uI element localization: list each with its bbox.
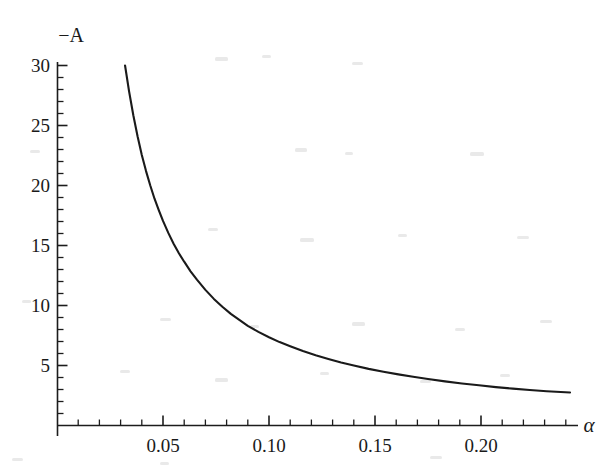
data-curve-line [125,66,570,393]
axis-lines [57,62,578,436]
y-tick-label-2: 15 [31,235,50,256]
y-axis-tick-labels: 5 10 15 20 25 30 [31,55,50,376]
y-tick-label-3: 20 [31,175,50,196]
x-axis-title: α [583,413,595,437]
x-tick-label-2: 0.15 [358,435,391,456]
y-axis-major-ticks [58,66,68,366]
x-tick-label-3: 0.20 [464,435,497,456]
y-tick-label-1: 10 [31,295,50,316]
x-axis-tick-labels: 0.05 0.10 0.15 0.20 [146,435,497,456]
x-axis-minor-ticks [78,420,566,426]
y-tick-label-4: 25 [31,115,50,136]
x-tick-label-1: 0.10 [252,435,285,456]
y-tick-label-0: 5 [41,355,51,376]
x-tick-label-0: 0.05 [146,435,179,456]
plot-figure: 0.05 0.10 0.15 0.20 5 10 15 20 25 30 −A … [0,0,613,475]
y-tick-label-5: 30 [31,55,50,76]
chart-page: 0.05 0.10 0.15 0.20 5 10 15 20 25 30 −A … [0,0,613,475]
x-axis-major-ticks [163,416,481,426]
scan-noise [12,55,552,465]
y-axis-title: −A [58,24,84,46]
